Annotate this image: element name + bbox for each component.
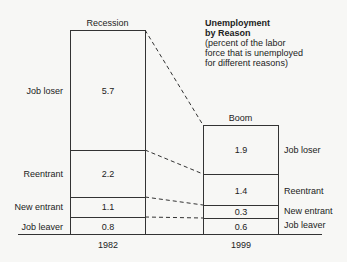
recession-header: Recession: [70, 18, 145, 28]
divider: [203, 205, 279, 206]
label-left-job-loser: Job loser: [0, 86, 63, 96]
divider: [70, 150, 146, 151]
divider: [203, 174, 279, 175]
divider: [70, 217, 146, 218]
chart-title-line2: by Reason: [205, 28, 251, 38]
label-left-reentrant: Reentrant: [0, 169, 63, 179]
value-1982-new-entrant: 1.1: [70, 202, 146, 212]
label-left-new-entrant: New entrant: [0, 202, 63, 212]
year-1982: 1982: [70, 240, 146, 250]
value-1982-reentrant: 2.2: [70, 169, 146, 179]
label-right-new-entrant: New entrant: [284, 206, 333, 216]
value-1999-job-loser: 1.9: [203, 145, 279, 155]
divider: [70, 197, 146, 198]
chart-subtitle-line1: (percent of the labor: [205, 38, 286, 48]
value-1999-reentrant: 1.4: [203, 186, 279, 196]
value-1982-job-loser: 5.7: [70, 86, 146, 96]
label-left-job-leaver: Job leaver: [0, 222, 63, 232]
label-right-job-leaver: Job leaver: [284, 220, 326, 230]
value-1982-job-leaver: 0.8: [70, 222, 146, 232]
chart-subtitle-line3: for different reasons): [205, 58, 288, 68]
value-1999-job-leaver: 0.6: [203, 222, 279, 232]
label-right-reentrant: Reentrant: [284, 186, 324, 196]
year-1999: 1999: [203, 240, 279, 250]
divider: [203, 218, 279, 219]
chart-subtitle-line2: force that is unemployed: [205, 48, 303, 58]
label-right-job-loser: Job loser: [284, 145, 321, 155]
boom-header: Boom: [203, 113, 278, 123]
value-1999-new-entrant: 0.3: [203, 207, 279, 217]
chart-title-line1: Unemployment: [205, 18, 270, 28]
